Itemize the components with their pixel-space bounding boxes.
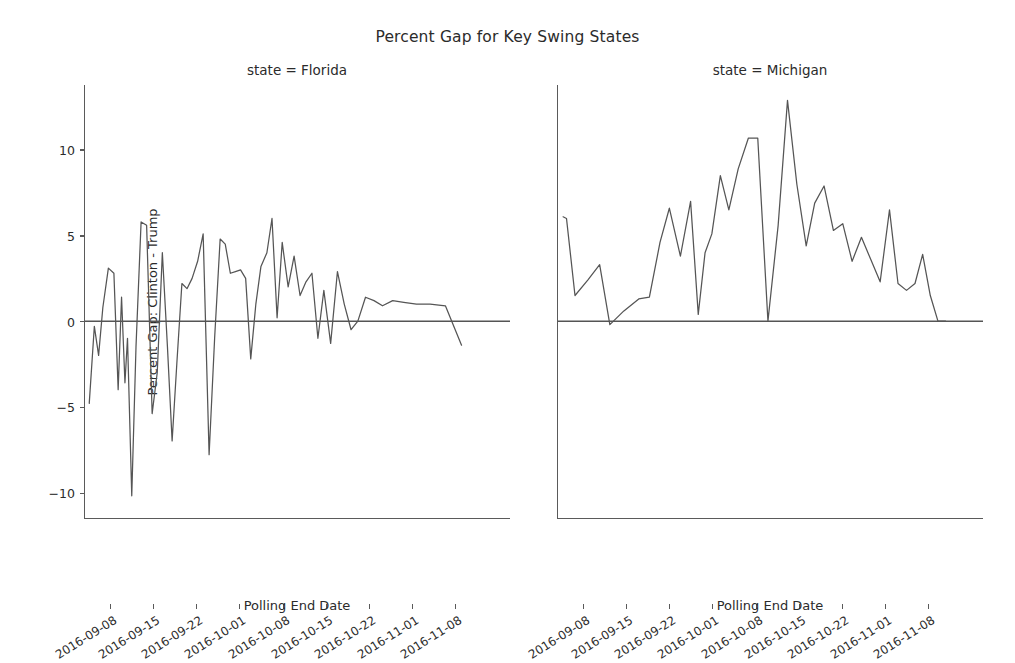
x-axis-label-florida: Polling End Date [84, 598, 510, 613]
plot-area-michigan [557, 85, 983, 519]
y-tick-label: 0 [67, 315, 75, 330]
plot-area-florida [84, 85, 510, 519]
y-tick-label: 5 [67, 229, 75, 244]
y-tick-label: −10 [49, 486, 75, 501]
y-tick-label: −5 [57, 400, 75, 415]
line-plot-florida [85, 85, 510, 518]
y-tick-label: 10 [59, 143, 75, 158]
line-plot-michigan [558, 85, 983, 518]
panel-florida: state = Florida 2016-09-082016-09-152016… [84, 85, 510, 519]
data-series-line [563, 100, 946, 324]
x-axis-label-michigan: Polling End Date [557, 598, 983, 613]
panel-title-michigan: state = Michigan [557, 62, 983, 78]
chart-title: Percent Gap for Key Swing States [0, 28, 1015, 46]
panel-michigan: state = Michigan 2016-09-082016-09-15201… [557, 85, 983, 519]
panel-title-florida: state = Florida [84, 62, 510, 78]
data-series-line [89, 218, 461, 495]
